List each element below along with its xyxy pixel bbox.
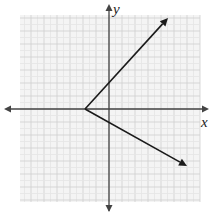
x-axis-left-arrow-icon [4,106,11,113]
y-axis-up-arrow-icon [106,4,113,11]
coordinate-plane: y x [0,0,213,216]
x-axis-label: x [200,114,208,130]
y-axis-label: y [111,1,120,17]
y-axis-down-arrow-icon [106,205,113,212]
x-axis-right-arrow-icon [202,106,209,113]
